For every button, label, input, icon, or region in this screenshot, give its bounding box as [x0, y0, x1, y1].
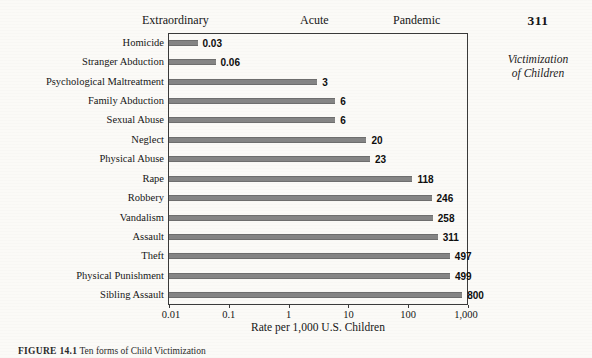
bar-row: Neglect20: [0, 130, 480, 149]
bar-chart: Homicide0.03Stranger Abduction0.06Psycho…: [0, 0, 480, 336]
category-label: Neglect: [131, 134, 164, 146]
running-head-line-2: of Children: [492, 66, 584, 80]
x-axis-tick: [229, 305, 230, 308]
bar-row: Sexual Abuse6: [0, 111, 480, 130]
bar: [169, 79, 317, 85]
x-axis-tick: [289, 305, 290, 308]
bar-row: Robbery246: [0, 188, 480, 207]
bar-value-label: 118: [417, 173, 433, 184]
x-axis-tick-label: 0.1: [222, 309, 235, 320]
bar-value-label: 311: [443, 231, 459, 242]
x-axis-tick-label: 10: [343, 309, 354, 320]
x-axis-tick: [169, 305, 170, 308]
bar: [169, 117, 335, 123]
category-label: Stranger Abduction: [82, 56, 164, 68]
bar-value-label: 499: [455, 270, 472, 281]
figure-caption-tag: FIGURE 14.1: [18, 346, 77, 356]
bar-value-label: 6: [340, 115, 346, 126]
bar: [169, 156, 370, 162]
bar-value-label: 23: [375, 154, 386, 165]
x-axis-tick-label: 1,000: [454, 309, 478, 320]
running-head-line-1: Victimization: [492, 52, 584, 66]
bar-value-label: 6: [340, 95, 346, 106]
bar-row: Vandalism258: [0, 208, 480, 227]
x-axis-tick-label: 1: [286, 309, 291, 320]
figure-caption: FIGURE 14.1 Ten forms of Child Victimiza…: [18, 346, 488, 358]
category-label: Psychological Maltreatment: [46, 76, 164, 88]
bar-value-label: 3: [322, 76, 328, 87]
bar-rows: Homicide0.03Stranger Abduction0.06Psycho…: [0, 33, 480, 305]
category-label: Vandalism: [120, 212, 164, 224]
category-label: Family Abduction: [88, 95, 164, 107]
bar: [169, 195, 432, 201]
bar: [169, 253, 450, 259]
x-axis-tick-label: 0.01: [162, 309, 180, 320]
bar: [169, 59, 216, 65]
x-axis-tick: [348, 305, 349, 308]
bar-row: Physical Punishment499: [0, 266, 480, 285]
category-label: Robbery: [128, 192, 164, 204]
category-label: Sibling Assault: [100, 289, 164, 301]
category-label: Sexual Abuse: [107, 114, 164, 126]
category-label: Assault: [133, 231, 165, 243]
bar-value-label: 800: [467, 290, 484, 301]
bar-row: Physical Abuse23: [0, 150, 480, 169]
category-label: Physical Abuse: [100, 153, 164, 165]
page-number: 311: [492, 13, 584, 29]
bar: [169, 176, 412, 182]
bar-value-label: 20: [371, 134, 382, 145]
x-axis-tick: [468, 305, 469, 308]
bar-value-label: 258: [438, 212, 455, 223]
bar-row: Psychological Maltreatment3: [0, 72, 480, 91]
x-axis-tick-label: 100: [400, 309, 416, 320]
bar: [169, 98, 335, 104]
bar-value-label: 497: [455, 251, 472, 262]
category-label: Theft: [141, 250, 164, 262]
bar-value-label: 246: [437, 193, 454, 204]
bar-row: Sibling Assault800: [0, 286, 480, 305]
bar-value-label: 0.03: [203, 37, 222, 48]
bar-row: Rape118: [0, 169, 480, 188]
category-label: Rape: [142, 173, 164, 185]
running-head: Victimization of Children: [492, 52, 584, 80]
figure-caption-text: Ten forms of Child Victimization: [79, 346, 205, 356]
bar: [169, 215, 433, 221]
bar: [169, 40, 198, 46]
x-axis-label: Rate per 1,000 U.S. Children: [168, 321, 468, 333]
bar-row: Theft497: [0, 247, 480, 266]
category-label: Physical Punishment: [76, 270, 164, 282]
bar-value-label: 0.06: [221, 57, 240, 68]
bar: [169, 137, 366, 143]
bar: [169, 292, 462, 298]
bar-row: Stranger Abduction0.06: [0, 52, 480, 71]
bar: [169, 234, 438, 240]
bar-row: Family Abduction6: [0, 91, 480, 110]
bar-row: Assault311: [0, 227, 480, 246]
x-axis-tick: [408, 305, 409, 308]
bar-row: Homicide0.03: [0, 33, 480, 52]
category-label: Homicide: [123, 37, 164, 49]
bar: [169, 273, 450, 279]
book-page: 311 Victimization of Children Extraordin…: [0, 0, 592, 358]
